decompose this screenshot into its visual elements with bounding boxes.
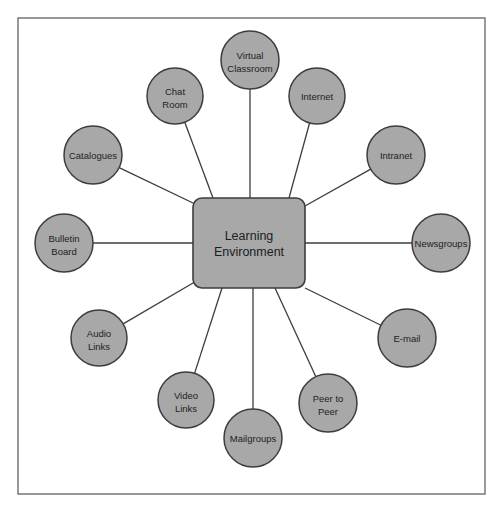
node-internet[interactable]: Internet: [289, 68, 345, 124]
node-video-links[interactable]: VideoLinks: [158, 372, 214, 428]
node-label-bulletin-board-line2: Board: [51, 246, 76, 257]
node-label-video-links-line1: Video: [174, 390, 198, 401]
node-label-mailgroups: Mailgroups: [230, 433, 277, 444]
node-label-internet: Internet: [301, 91, 334, 102]
node-label-e-mail: E-mail: [394, 333, 421, 344]
node-newsgroups[interactable]: Newsgroups: [412, 214, 470, 272]
node-audio-links[interactable]: AudioLinks: [71, 310, 127, 366]
node-e-mail[interactable]: E-mail: [378, 309, 436, 367]
node-mailgroups[interactable]: Mailgroups: [224, 409, 282, 467]
node-label-audio-links-line1: Audio: [87, 328, 111, 339]
node-chat-room[interactable]: ChatRoom: [147, 68, 203, 124]
node-label-virtual-classroom-line2: Classroom: [227, 63, 272, 74]
node-label-audio-links-line2: Links: [88, 341, 110, 352]
hub-label-line2: Environment: [214, 245, 285, 259]
node-label-virtual-classroom-line1: Virtual: [237, 50, 264, 61]
node-label-chat-room-line1: Chat: [165, 86, 185, 97]
hub-label-line1: Learning: [225, 229, 274, 243]
node-label-video-links-line2: Links: [175, 403, 197, 414]
node-virtual-classroom[interactable]: VirtualClassroom: [221, 31, 279, 89]
node-catalogues[interactable]: Catalogues: [64, 126, 122, 184]
node-label-chat-room-line2: Room: [162, 99, 187, 110]
node-peer-to-peer[interactable]: Peer toPeer: [299, 374, 357, 432]
node-label-peer-to-peer-line2: Peer: [318, 406, 338, 417]
node-label-newsgroups: Newsgroups: [415, 238, 468, 249]
node-intranet[interactable]: Intranet: [367, 126, 425, 184]
node-bulletin-board[interactable]: BulletinBoard: [35, 214, 93, 272]
node-label-catalogues: Catalogues: [69, 150, 117, 161]
learning-environment-diagram: Learning Environment VirtualClassroomInt…: [0, 0, 502, 507]
hub-layer: Learning Environment: [193, 198, 305, 288]
node-label-bulletin-board-line1: Bulletin: [48, 233, 79, 244]
diagram-canvas: Learning Environment VirtualClassroomInt…: [0, 0, 502, 507]
node-label-intranet: Intranet: [380, 150, 413, 161]
hub-node-learning-environment[interactable]: [193, 198, 305, 288]
node-label-peer-to-peer-line1: Peer to: [313, 393, 344, 404]
